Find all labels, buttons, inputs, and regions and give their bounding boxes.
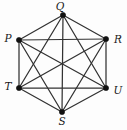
vertex-label-u: U <box>114 84 124 96</box>
vertex-label-r: R <box>113 33 122 45</box>
vertex-label-q: Q <box>56 0 65 13</box>
graph-canvas: QPRTUS <box>0 0 127 130</box>
vertex-label-t: T <box>4 80 12 92</box>
graph-vertex-u <box>103 85 108 90</box>
vertex-label-p: P <box>3 32 12 44</box>
graph-vertex-t <box>16 85 21 90</box>
graph-vertex-r <box>103 36 108 41</box>
graph-vertex-p <box>16 37 21 42</box>
edge-layer <box>19 15 106 112</box>
graph-figure: QPRTUS <box>0 0 127 130</box>
graph-vertex-s <box>59 109 64 114</box>
graph-vertex-q <box>60 12 65 17</box>
graph-edge <box>19 15 63 40</box>
vertex-label-s: S <box>58 115 65 127</box>
